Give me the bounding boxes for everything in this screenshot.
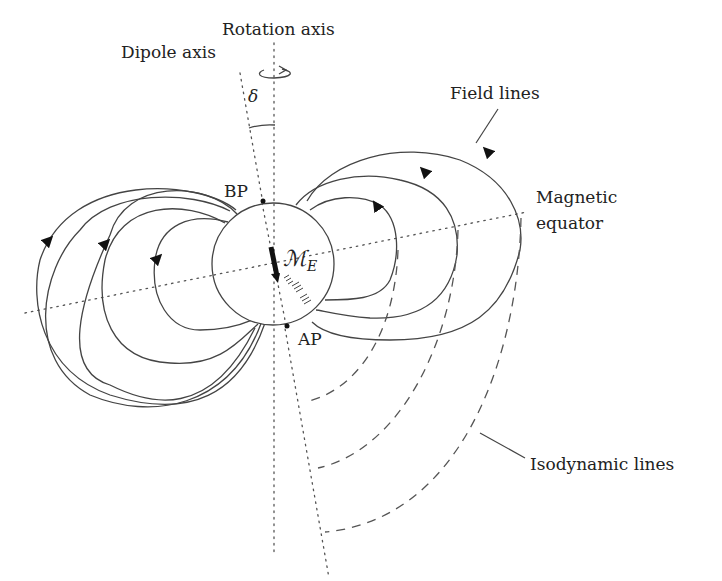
dipole-axis-label: Dipole axis — [121, 42, 216, 62]
magnetic-equator-label: Magnetic — [536, 187, 617, 207]
isodynamic-lines-leader — [480, 433, 525, 458]
bp-label: BP — [224, 181, 248, 201]
magnetic-equator-label-2: equator — [536, 213, 604, 233]
ap-point — [285, 324, 290, 329]
delta-label: δ — [248, 86, 258, 106]
isodynamic-lines — [305, 218, 521, 532]
field-lines-leader — [476, 109, 498, 143]
rotation-axis-label: Rotation axis — [222, 19, 335, 39]
bp-point — [261, 199, 266, 204]
dipole-diagram: δ ℳE BP AP — [0, 0, 722, 581]
rotation-arrow-icon — [259, 66, 290, 78]
isodynamic-lines-label: Isodynamic lines — [530, 454, 674, 474]
field-lines-label: Field lines — [450, 83, 540, 103]
delta-angle-arc — [249, 125, 275, 128]
ap-label: AP — [297, 329, 322, 349]
